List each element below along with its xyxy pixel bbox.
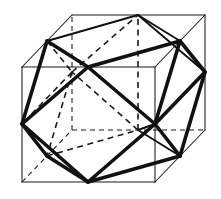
cuboct-edge-fr-br: [155, 124, 180, 156]
cuboct-edge-tr-kr: [180, 41, 205, 72]
cuboct-edge-fl-bf: [22, 124, 88, 182]
cuboct-edge-tf-tr: [88, 41, 180, 67]
cuboct-edge-tf-tl: [47, 41, 88, 67]
cuboctahedron-in-cube-diagram: [0, 0, 221, 199]
cuboctahedron-back-edges-group: [47, 15, 205, 156]
cuboct-edge-tb-tr: [138, 15, 180, 41]
cuboctahedron-hidden-edges-group: [22, 15, 138, 156]
figure-container: [0, 0, 221, 199]
cuboct-edge-bl-bf: [47, 156, 88, 182]
cuboct-edge-tl-tb: [47, 15, 138, 41]
cuboctahedron-front-edges-group: [22, 41, 205, 182]
